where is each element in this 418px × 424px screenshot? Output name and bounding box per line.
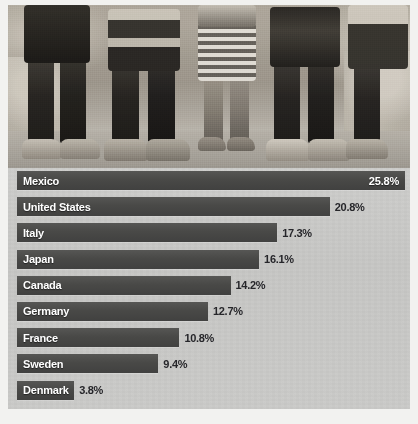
bar: Denmark	[17, 381, 74, 400]
bar-value-label: 3.8%	[79, 384, 103, 396]
photo-grain	[8, 5, 410, 173]
bar-row: Italy17.3%	[8, 220, 410, 246]
bar-category-label: Germany	[23, 305, 69, 317]
bar-value-label: 17.3%	[282, 227, 312, 239]
page-root: Mexico25.8%United States20.8%Italy17.3%J…	[0, 0, 418, 424]
bar-value-label: 14.2%	[236, 279, 266, 291]
bar: Mexico25.8%	[17, 171, 405, 190]
bar-row: Germany12.7%	[8, 299, 410, 325]
bar-chart: Mexico25.8%United States20.8%Italy17.3%J…	[8, 168, 410, 409]
bar-row: Denmark3.8%	[8, 378, 410, 404]
bar-category-label: Mexico	[23, 175, 59, 187]
bar-row: France10.8%	[8, 325, 410, 351]
bar-row: Canada14.2%	[8, 273, 410, 299]
bar-row: Sweden9.4%	[8, 351, 410, 377]
bar-rows: Mexico25.8%United States20.8%Italy17.3%J…	[8, 168, 410, 404]
bar: Italy	[17, 223, 277, 242]
bar-category-label: Denmark	[23, 384, 69, 396]
bar-row: Mexico25.8%	[8, 168, 410, 194]
bar-value-label: 16.1%	[264, 253, 294, 265]
bar-category-label: Canada	[23, 279, 62, 291]
bar-row: Japan16.1%	[8, 247, 410, 273]
bar-category-label: France	[23, 332, 58, 344]
bar-category-label: Italy	[23, 227, 44, 239]
bar-row: United States20.8%	[8, 194, 410, 220]
bar-value-label: 20.8%	[335, 201, 365, 213]
bar: Sweden	[17, 354, 158, 373]
bar: Japan	[17, 250, 259, 269]
bar: Germany	[17, 302, 208, 321]
bar-value-label: 10.8%	[184, 332, 214, 344]
bar-value-label: 12.7%	[213, 305, 243, 317]
bar: Canada	[17, 276, 231, 295]
bar-value-label: 9.4%	[163, 358, 187, 370]
bar-category-label: Sweden	[23, 358, 63, 370]
bar-category-label: United States	[23, 201, 91, 213]
bar: United States	[17, 197, 330, 216]
bar-value-label: 25.8%	[369, 175, 399, 187]
header-photograph	[8, 5, 410, 173]
bar: France	[17, 328, 179, 347]
bar-category-label: Japan	[23, 253, 54, 265]
